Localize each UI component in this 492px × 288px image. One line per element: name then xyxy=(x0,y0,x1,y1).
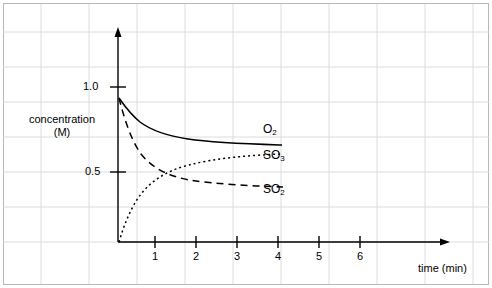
series-o2-curve xyxy=(119,98,282,145)
series-label-o2: O2 xyxy=(263,122,277,137)
series-curves xyxy=(119,98,283,242)
series-label-so2: SO2 xyxy=(263,182,285,197)
x-tick-label-4: 4 xyxy=(275,250,281,262)
x-tick-label-2: 2 xyxy=(193,250,199,262)
series-label-so3-text: SO xyxy=(263,148,280,162)
series-label-so2-text: SO xyxy=(263,182,280,196)
chart-canvas xyxy=(0,0,492,288)
y-tick-label-0.5: 0.5 xyxy=(85,165,100,177)
x-tick-label-5: 5 xyxy=(316,250,322,262)
y-tick-label-1.0: 1.0 xyxy=(83,80,98,92)
series-label-o2-sub: 2 xyxy=(272,128,276,137)
x-axis-arrow xyxy=(440,239,450,246)
axes xyxy=(115,27,451,246)
series-label-so3: SO3 xyxy=(263,148,285,163)
x-tick-label-1: 1 xyxy=(152,250,158,262)
x-axis-title: time (min) xyxy=(418,262,467,274)
x-tick-label-3: 3 xyxy=(234,250,240,262)
y-axis-title-line2: (M) xyxy=(54,126,71,138)
x-tick-label-6: 6 xyxy=(357,250,363,262)
chart-figure: 1.0 0.5 1 2 3 4 5 6 concentration (M) ti… xyxy=(0,0,492,288)
series-label-o2-text: O xyxy=(263,122,272,136)
y-axis-title: concentration (M) xyxy=(22,113,102,139)
series-so3-curve xyxy=(119,154,283,242)
series-label-so2-sub: 2 xyxy=(280,188,284,197)
series-so2-curve xyxy=(119,98,283,187)
series-label-so3-sub: 3 xyxy=(280,154,284,163)
y-axis-title-line1: concentration xyxy=(29,113,95,125)
